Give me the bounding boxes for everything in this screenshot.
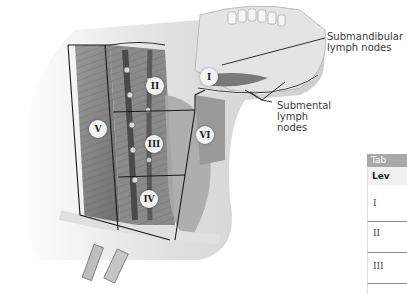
level-marker-i: I <box>200 68 218 86</box>
submental-callout: Submental lymph nodes <box>277 100 331 133</box>
submandibular-callout: Submandibular lymph nodes <box>327 31 403 53</box>
levels-table: Tab Lev I II III IV <box>367 154 407 294</box>
level-marker-iv: IV <box>140 190 158 208</box>
table-row: I <box>367 185 407 222</box>
level-marker-ii: II <box>146 77 164 95</box>
level-marker-v: V <box>89 120 107 138</box>
level-marker-iii: III <box>145 135 163 153</box>
callout-line: nodes <box>277 122 331 133</box>
callout-line: Submental <box>277 100 331 111</box>
table-row: IV <box>367 284 407 294</box>
table-header-level: Lev <box>367 167 407 185</box>
table-title: Tab <box>367 154 407 167</box>
callout-line: lymph nodes <box>327 42 403 53</box>
level-marker-vi: VI <box>196 126 214 144</box>
callout-line: lymph <box>277 111 331 122</box>
table-row: II <box>367 222 407 253</box>
callout-line: Submandibular <box>327 31 403 42</box>
table-row: III <box>367 253 407 284</box>
